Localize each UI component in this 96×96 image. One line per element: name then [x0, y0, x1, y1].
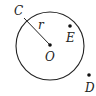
point-d	[87, 73, 91, 77]
label-c: C	[14, 4, 23, 18]
label-o: O	[45, 50, 55, 64]
point-e	[68, 24, 72, 28]
label-d: D	[84, 81, 95, 95]
radius-segment	[24, 18, 50, 45]
label-e: E	[65, 31, 75, 45]
point-o	[48, 43, 52, 47]
circle-diagram: C r O E D	[0, 0, 96, 96]
label-r: r	[38, 18, 45, 32]
